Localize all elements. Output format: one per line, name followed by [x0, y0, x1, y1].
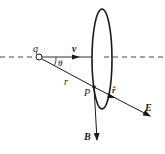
angle-label: θ [58, 58, 63, 68]
radius-line [42, 59, 94, 87]
magnetic-field-label: B [83, 131, 91, 142]
unit-vector-label: r̂ [112, 85, 117, 95]
point-p-dot [92, 85, 96, 89]
velocity-label: v [72, 43, 77, 54]
angle-arc [55, 57, 57, 66]
field-diagram: q v θ r P r̂ E B [0, 0, 165, 154]
distance-label: r [64, 76, 68, 87]
electric-field-vector [94, 87, 150, 116]
point-label: P [83, 87, 90, 98]
charge-circle-icon [36, 54, 42, 60]
velocity-arrow-icon [72, 55, 80, 60]
charge-label: q [33, 43, 38, 54]
diagram-canvas: q v θ r P r̂ E B [0, 0, 165, 154]
electric-field-label: E [144, 102, 152, 113]
